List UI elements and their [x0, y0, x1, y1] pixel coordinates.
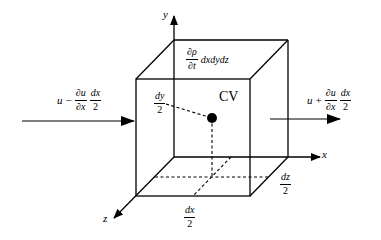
drho-dt-fraction: ∂ρ ∂t: [186, 47, 198, 71]
half-dx-label: dx 2: [184, 205, 195, 229]
storage-suffix: dxdydz: [201, 54, 229, 65]
storage-term: ∂ρ ∂t dxdydz: [186, 47, 229, 71]
half-dz-label: dz 2: [280, 172, 291, 196]
z-axis: [114, 157, 174, 218]
half-dy-label: dy 2: [154, 91, 165, 115]
centroid-dot: [207, 113, 217, 123]
cv-label: CV: [219, 89, 238, 105]
y-axis-label: y: [163, 9, 168, 20]
x-axis-label: x: [322, 149, 327, 160]
inflow-expression: u − ∂u ∂x dx 2: [57, 88, 101, 112]
z-axis-label: z: [103, 213, 107, 224]
outflow-expression: u + ∂u ∂x dx 2: [307, 88, 351, 112]
